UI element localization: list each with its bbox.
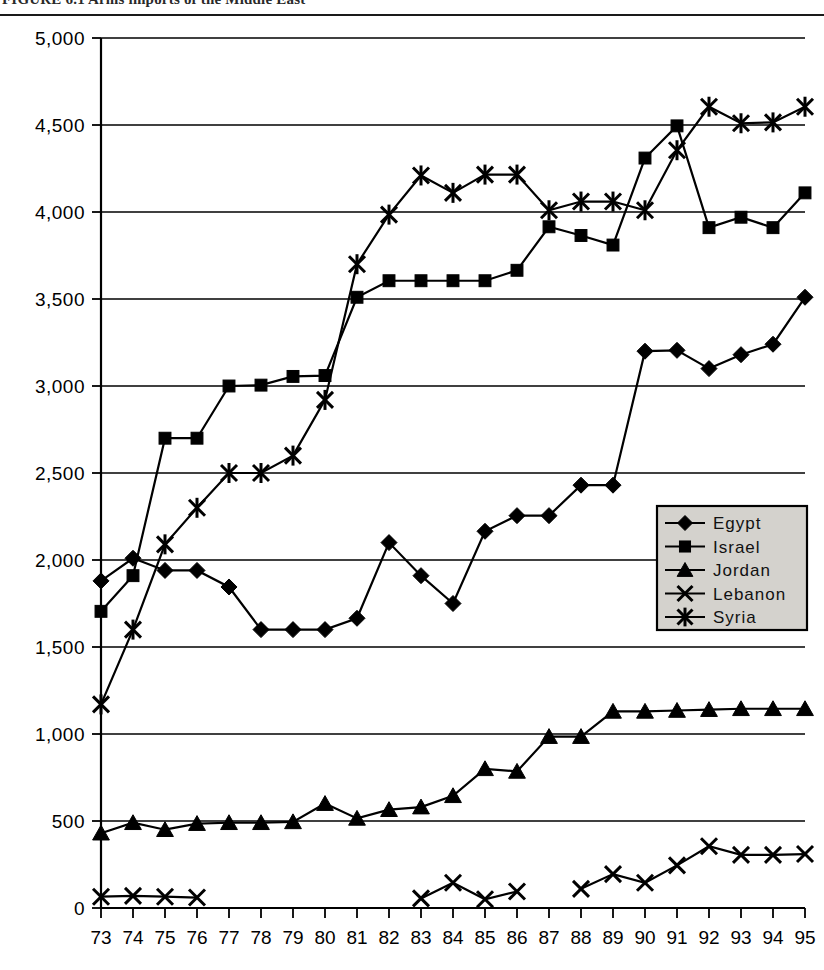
x-tick-label: 81: [346, 927, 367, 948]
data-point-diamond: [797, 289, 813, 305]
data-series-layer: [93, 97, 814, 908]
data-point-asterisk: [317, 390, 333, 410]
data-point-triangle: [125, 815, 142, 830]
figure-title: FIGURE 6.1 Arms imports of the Middle Ea…: [2, 0, 305, 8]
data-point-asterisk: [349, 254, 365, 274]
data-point-square: [575, 230, 587, 242]
data-point-diamond: [285, 622, 301, 638]
legend-label: Jordan: [713, 561, 771, 580]
data-point-square: [351, 291, 363, 303]
data-point-x: [509, 883, 525, 899]
x-tick-label: 83: [410, 927, 431, 948]
x-tick-label: 88: [570, 927, 591, 948]
x-tick-label: 79: [282, 927, 303, 948]
data-point-x: [637, 875, 653, 891]
data-point-asterisk: [93, 694, 109, 714]
line-chart: 05001,0001,5002,0002,5003,0003,5004,0004…: [0, 16, 824, 970]
series-lebanon: [93, 838, 813, 907]
data-point-square: [447, 275, 459, 287]
y-axis-tick-labels: 05001,0001,5002,0002,5003,0003,5004,0004…: [35, 28, 85, 919]
series-line: [421, 883, 517, 900]
legend-label: Israel: [713, 538, 761, 557]
x-tick-label: 95: [794, 927, 815, 948]
y-tick-label: 5,000: [35, 28, 85, 49]
data-point-square: [799, 187, 811, 199]
y-gridlines: [101, 38, 805, 821]
data-point-x: [477, 891, 493, 907]
data-point-x: [701, 838, 717, 854]
data-point-asterisk: [157, 534, 173, 554]
data-point-square: [479, 275, 491, 287]
data-point-square: [543, 221, 555, 233]
data-point-asterisk: [189, 498, 205, 518]
series-jordan: [93, 701, 814, 840]
y-tick-label: 0: [74, 898, 85, 919]
x-tick-label: 73: [90, 927, 111, 948]
data-point-square: [287, 370, 299, 382]
data-point-x: [573, 881, 589, 897]
data-point-square: [735, 211, 747, 223]
x-tick-label: 89: [602, 927, 623, 948]
data-point-diamond: [509, 508, 525, 524]
data-point-square: [383, 275, 395, 287]
y-tick-label: 2,500: [35, 463, 85, 484]
y-tick-label: 1,500: [35, 637, 85, 658]
y-tick-label: 2,000: [35, 550, 85, 571]
data-point-asterisk: [669, 140, 685, 160]
figure-page: FIGURE 6.1 Arms imports of the Middle Ea…: [0, 0, 824, 970]
y-axis-ticks: [92, 38, 101, 908]
x-tick-label: 80: [314, 927, 335, 948]
legend-label: Lebanon: [713, 585, 786, 604]
y-tick-label: 3,500: [35, 289, 85, 310]
data-point-triangle: [317, 796, 334, 811]
chart-legend[interactable]: EgyptIsraelJordanLebanonSyria: [657, 506, 807, 630]
x-axis-ticks: [101, 908, 805, 918]
x-tick-label: 77: [218, 927, 239, 948]
y-tick-label: 3,000: [35, 376, 85, 397]
data-point-square: [639, 152, 651, 164]
data-point-square: [255, 379, 267, 391]
data-point-asterisk: [541, 200, 557, 220]
x-tick-label: 84: [442, 927, 464, 948]
y-tick-label: 4,000: [35, 202, 85, 223]
data-point-triangle: [93, 825, 110, 840]
series-line: [101, 709, 805, 833]
data-point-square: [95, 605, 107, 617]
data-point-diamond: [189, 562, 205, 578]
data-point-square: [511, 264, 523, 276]
data-point-asterisk: [445, 183, 461, 203]
data-point-x: [605, 866, 621, 882]
data-point-diamond: [669, 342, 685, 358]
data-point-asterisk: [797, 97, 813, 117]
data-point-diamond: [605, 477, 621, 493]
x-tick-label: 90: [634, 927, 655, 948]
x-tick-label: 85: [474, 927, 495, 948]
x-tick-label: 87: [538, 927, 559, 948]
data-point-asterisk: [381, 205, 397, 225]
data-point-asterisk: [125, 620, 141, 640]
data-point-asterisk: [637, 200, 653, 220]
data-point-x: [669, 857, 685, 873]
data-point-square: [159, 432, 171, 444]
figure-title-strip: FIGURE 6.1 Arms imports of the Middle Ea…: [0, 0, 824, 16]
legend-label: Syria: [713, 608, 757, 627]
data-point-diamond: [157, 562, 173, 578]
y-tick-label: 500: [52, 811, 85, 832]
data-point-asterisk: [413, 165, 429, 185]
data-point-diamond: [221, 579, 237, 595]
legend-label: Egypt: [713, 514, 761, 533]
data-point-square: [223, 380, 235, 392]
data-point-square: [767, 222, 779, 234]
data-point-square: [703, 222, 715, 234]
data-point-square: [671, 120, 683, 132]
data-point-x: [413, 890, 429, 906]
data-point-square: [607, 239, 619, 251]
x-tick-label: 93: [730, 927, 751, 948]
x-tick-label: 91: [666, 927, 687, 948]
y-tick-label: 1,000: [35, 724, 85, 745]
x-tick-label: 94: [762, 927, 784, 948]
x-tick-label: 75: [154, 927, 175, 948]
x-tick-label: 78: [250, 927, 271, 948]
data-point-diamond: [733, 347, 749, 363]
data-point-x: [445, 875, 461, 891]
